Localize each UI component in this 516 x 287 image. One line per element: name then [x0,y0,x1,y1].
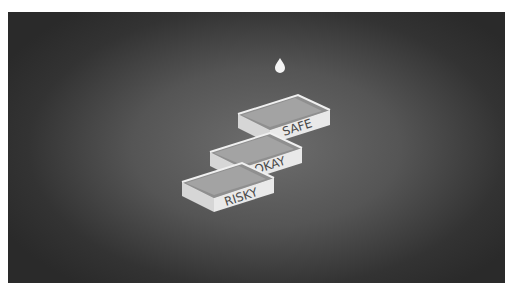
water-drop-icon [275,58,285,73]
illustration-stage: SAFE OKAY RISKY [8,12,505,283]
trays-illustration: SAFE OKAY RISKY [8,12,505,283]
tray-safe: SAFE [238,95,330,144]
